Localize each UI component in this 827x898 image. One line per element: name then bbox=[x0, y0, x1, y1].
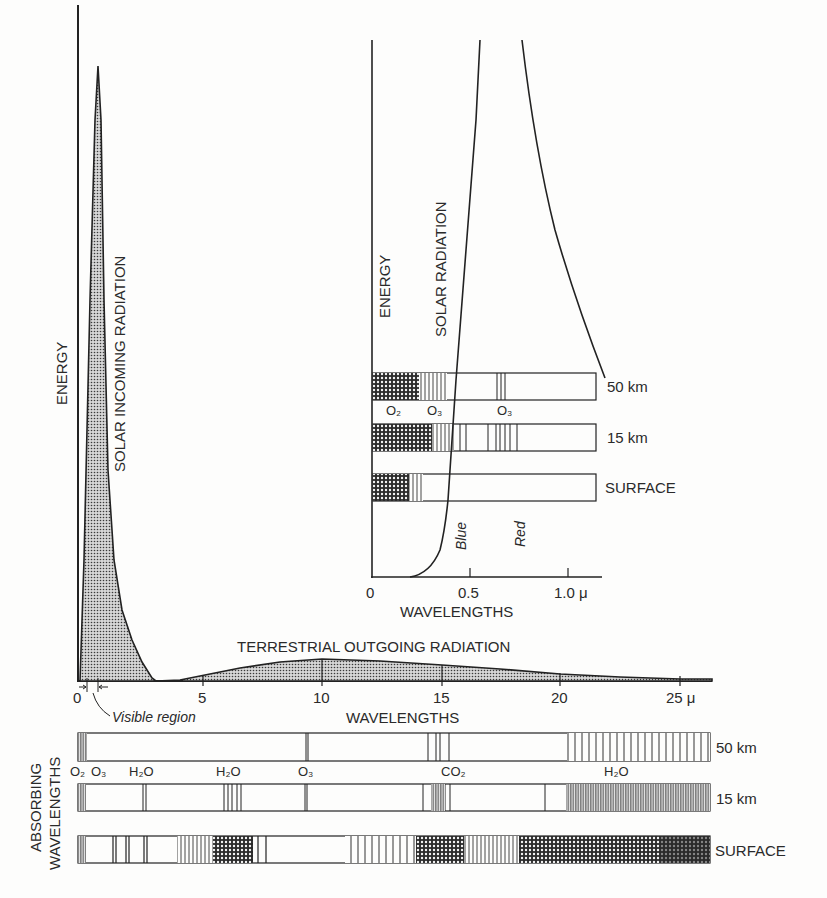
inset-x-tick-1-0: 1.0 μ bbox=[554, 584, 588, 601]
visible-region-label: Visible region bbox=[112, 709, 196, 725]
inset-bar-15km bbox=[373, 424, 596, 451]
wavelengths-side-label: WAVELENGTHS bbox=[46, 757, 63, 870]
absorption-panel: ABSORBING WAVELENGTHS O₂ O₃ H₂O H₂O O₃ C… bbox=[27, 733, 786, 870]
inset-gas-o2: O₂ bbox=[386, 403, 401, 418]
inset-gas-o3-b: O₃ bbox=[497, 403, 512, 418]
main-x-tick-15: 15 bbox=[433, 689, 450, 706]
gas-o2: O₂ bbox=[70, 764, 85, 779]
absorption-bar-15km bbox=[78, 784, 710, 811]
inset-gas-o3-a: O₃ bbox=[427, 403, 442, 418]
inset-bar-label-15km: 15 km bbox=[607, 429, 648, 446]
gas-o3-a: O₃ bbox=[91, 764, 106, 779]
radiation-diagram: 0 5 10 15 20 25 μ Visible region WAVELEN… bbox=[0, 0, 827, 898]
absorption-bar-surface bbox=[78, 836, 710, 863]
visible-region-marker bbox=[79, 678, 110, 716]
main-x-tick-5: 5 bbox=[198, 689, 206, 706]
main-x-axis-label: WAVELENGTHS bbox=[346, 709, 459, 726]
gas-h2o-a: H₂O bbox=[129, 764, 154, 779]
bar-label-surface: SURFACE bbox=[715, 842, 786, 859]
solar-incoming-label: SOLAR INCOMING RADIATION bbox=[111, 256, 128, 472]
main-y-axis-label: ENERGY bbox=[53, 342, 70, 405]
blue-label: Blue bbox=[453, 522, 469, 550]
absorption-bar-50km bbox=[78, 733, 710, 761]
inset-bar-surface bbox=[373, 474, 596, 501]
inset-bar-50km bbox=[373, 373, 596, 400]
main-x-tick-10: 10 bbox=[313, 689, 330, 706]
red-label: Red bbox=[512, 520, 528, 547]
inset-solar-curve-falling bbox=[522, 40, 605, 378]
inset-solar-radiation-label: SOLAR RADIATION bbox=[432, 201, 449, 337]
gas-h2o-b: H₂O bbox=[216, 764, 241, 779]
inset-y-axis-label: ENERGY bbox=[376, 255, 393, 318]
terrestrial-outgoing-label: TERRESTRIAL OUTGOING RADIATION bbox=[237, 638, 510, 655]
gas-h2o-c: H₂O bbox=[604, 764, 629, 779]
main-x-tick-0: 0 bbox=[73, 689, 81, 706]
absorbing-label: ABSORBING bbox=[27, 763, 44, 852]
terrestrial-outgoing-curve bbox=[156, 659, 712, 681]
main-x-tick-20: 20 bbox=[551, 689, 568, 706]
inset-bar-label-surface: SURFACE bbox=[605, 479, 676, 496]
bar-label-50km: 50 km bbox=[716, 739, 757, 756]
inset-x-axis-label: WAVELENGTHS bbox=[400, 603, 513, 620]
main-x-tick-25: 25 μ bbox=[666, 689, 696, 706]
bar-label-15km: 15 km bbox=[716, 790, 757, 807]
inset-x-tick-0-5: 0.5 bbox=[458, 584, 479, 601]
inset-chart: 0 0.5 1.0 μ WAVELENGTHS ENERGY bbox=[366, 40, 676, 620]
inset-bar-label-50km: 50 km bbox=[607, 378, 648, 395]
main-chart: 0 5 10 15 20 25 μ Visible region WAVELEN… bbox=[53, 5, 712, 726]
inset-x-tick-0: 0 bbox=[366, 584, 374, 601]
gas-o3-b: O₃ bbox=[298, 764, 313, 779]
gas-co2: CO₂ bbox=[441, 764, 466, 779]
